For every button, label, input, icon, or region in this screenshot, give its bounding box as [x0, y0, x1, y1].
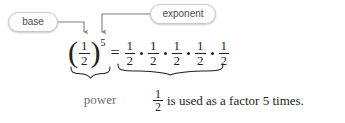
base-numerator: 1	[79, 39, 90, 53]
equals-sign: =	[111, 44, 120, 62]
multiplication-dot-icon	[140, 52, 143, 55]
caption-text: is used as a factor 5 times.	[167, 93, 304, 109]
underbrace-power	[70, 66, 112, 80]
factor-2-numerator: 1	[148, 39, 159, 53]
connector-exponent-arrow	[102, 14, 150, 32]
connector-base-arrow	[58, 22, 84, 32]
factor-5-numerator: 1	[219, 39, 230, 53]
base-denominator: 2	[79, 53, 90, 68]
label-power: power	[68, 92, 132, 108]
power-notation-diagram: base exponent ( 1 2 ) 5 = 1 2 1	[0, 0, 345, 123]
base-fraction: 1 2	[79, 39, 90, 67]
factor-1-numerator: 1	[125, 39, 136, 53]
multiplication-dot-icon	[164, 52, 167, 55]
multiplication-dot-icon	[211, 52, 214, 55]
caption-fraction: 1 2	[153, 88, 163, 114]
caption-factor-explanation: 1 2 is used as a factor 5 times.	[152, 88, 304, 114]
factor-4-numerator: 1	[195, 39, 206, 53]
left-paren: (	[68, 37, 78, 67]
exponent-value: 5	[101, 37, 106, 48]
right-paren: )	[91, 37, 101, 67]
caption-denominator: 2	[153, 100, 163, 113]
underbrace-factors	[117, 63, 225, 77]
multiplication-dot-icon	[187, 52, 190, 55]
caption-numerator: 1	[153, 88, 163, 100]
factor-3-numerator: 1	[172, 39, 183, 53]
